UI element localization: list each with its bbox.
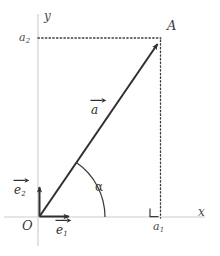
x-axis-label: x xyxy=(198,206,205,218)
component-a1-subscript: 1 xyxy=(160,226,164,234)
angle-alpha-label: α xyxy=(95,181,103,193)
basis-vector-e1-overarrow-icon xyxy=(55,217,72,223)
y-axis-label: y xyxy=(44,10,51,22)
vector-diagram: y x O A a1 a2 a e1 xyxy=(0,0,220,256)
vector-a-letter-wrap: a xyxy=(91,104,98,116)
component-a2-label: a2 xyxy=(19,32,30,45)
basis-vector-e1-subscript: 1 xyxy=(63,230,67,238)
component-a1-label: a1 xyxy=(153,221,164,234)
right-angle-marker xyxy=(150,209,158,217)
point-a-label: A xyxy=(167,19,176,32)
vector-a-label: a xyxy=(91,104,98,116)
component-a1-letter: a xyxy=(153,220,160,233)
vector-a-letter: a xyxy=(91,103,98,117)
basis-vector-e2-overarrow-icon xyxy=(13,177,30,183)
basis-vector-e1-label: e1 xyxy=(56,224,68,238)
vector-a-overarrow-icon xyxy=(90,97,107,103)
basis-vector-e1-letter-wrap: e1 xyxy=(56,224,68,238)
component-a2-subscript: 2 xyxy=(26,37,30,45)
basis-vector-e2-label: e2 xyxy=(14,184,26,198)
diagram-canvas xyxy=(0,0,220,256)
origin-label: O xyxy=(22,219,33,232)
basis-vector-e2-letter-wrap: e2 xyxy=(14,184,26,198)
basis-vector-e2-subscript: 2 xyxy=(21,190,25,198)
component-a2-letter: a xyxy=(19,31,26,44)
